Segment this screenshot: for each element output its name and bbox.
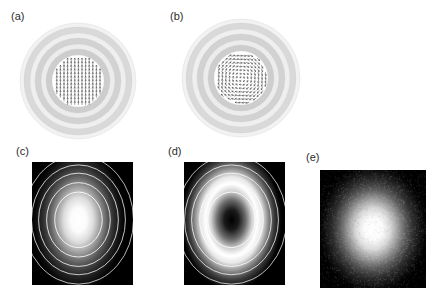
panel-label-c: (c) [16,146,29,157]
panel-b-svg [180,18,302,138]
panel-a-svg [18,22,138,140]
panel-d-intensity-map [184,162,285,285]
figure-canvas: (a) (b) (c) (d) (e) [0,0,439,298]
panel-d-svg [184,162,285,285]
panel-b-vector-field [180,18,302,138]
panel-c-intensity-map [32,162,133,285]
panel-a-vector-field [18,22,138,140]
panel-label-d: (d) [168,146,181,157]
panel-label-a: (a) [11,11,24,22]
panel-e-experimental-image [320,170,426,288]
panel-e-svg [320,170,426,288]
panel-label-e: (e) [306,152,319,163]
panel-c-svg [32,162,133,285]
